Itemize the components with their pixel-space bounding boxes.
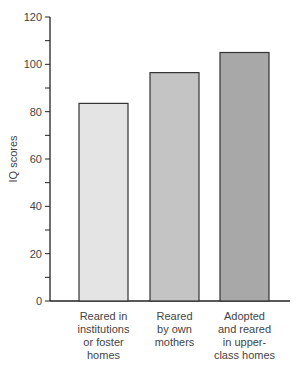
- x-tick-label: mothers: [155, 336, 195, 348]
- bar-chart: 020406080100120IQ scoresReared ininstitu…: [0, 0, 303, 370]
- bar: [220, 53, 269, 302]
- x-tick-label: or foster: [83, 336, 124, 348]
- x-tick-label: homes: [87, 349, 121, 361]
- x-tick-label: Reared in: [80, 310, 128, 322]
- x-tick-label: institutions: [78, 323, 130, 335]
- x-tick-label: Adopted: [224, 310, 265, 322]
- y-axis-label: IQ scores: [7, 135, 19, 183]
- x-tick-label: class homes: [214, 349, 276, 361]
- x-tick-label: Reared: [156, 310, 192, 322]
- x-tick-label: and reared: [218, 323, 271, 335]
- y-tick-label: 100: [24, 58, 42, 70]
- y-tick-label: 120: [24, 11, 42, 23]
- y-tick-label: 60: [30, 153, 42, 165]
- x-tick-label: in upper-: [223, 336, 267, 348]
- y-tick-label: 0: [36, 295, 42, 307]
- y-tick-label: 40: [30, 200, 42, 212]
- y-tick-label: 20: [30, 248, 42, 260]
- bar: [150, 73, 199, 301]
- bar: [79, 103, 128, 301]
- y-tick-label: 80: [30, 106, 42, 118]
- x-tick-label: by own: [157, 323, 192, 335]
- chart-root: 020406080100120IQ scoresReared ininstitu…: [0, 0, 303, 370]
